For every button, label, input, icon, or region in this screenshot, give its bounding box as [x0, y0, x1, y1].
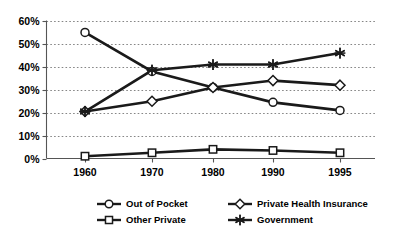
x-tick-label: 1995 [328, 166, 352, 178]
y-tick-label: 50% [18, 38, 40, 50]
legend-label: Other Private [126, 214, 186, 225]
legend-item-other-private[interactable]: Other Private [97, 214, 186, 225]
y-tick-label: 60% [18, 15, 40, 27]
x-tick-label: 1980 [201, 166, 225, 178]
legend-label: Out of Pocket [126, 198, 189, 209]
data-point-marker-square [148, 149, 155, 156]
y-tick-label: 0% [24, 153, 40, 165]
data-point-marker-square [105, 216, 112, 223]
y-tick-label: 20% [18, 107, 40, 119]
data-point-marker-circle [105, 200, 113, 208]
data-point-marker-square [209, 146, 216, 153]
y-tick-label: 10% [18, 130, 40, 142]
data-point-marker-square [336, 149, 343, 156]
data-point-marker-square [269, 147, 276, 154]
legend-item-out-of-pocket[interactable]: Out of Pocket [97, 198, 189, 209]
legend-label: Private Health Insurance [257, 198, 368, 209]
data-point-marker-circle [336, 106, 344, 114]
x-tick-label: 1960 [73, 166, 97, 178]
y-tick-label: 40% [18, 61, 40, 73]
legend-label: Government [257, 214, 314, 225]
line-chart: 0%10%20%30%40%50%60% 1960197019801990199… [0, 0, 395, 238]
x-tick-label: 1990 [261, 166, 285, 178]
data-point-marker-circle [81, 28, 89, 36]
y-tick-label: 30% [18, 84, 40, 96]
data-point-marker-square [81, 153, 88, 160]
x-tick-label: 1970 [140, 166, 164, 178]
chart-container: 0%10%20%30%40%50%60% 1960197019801990199… [0, 0, 395, 238]
data-point-marker-circle [269, 98, 277, 106]
